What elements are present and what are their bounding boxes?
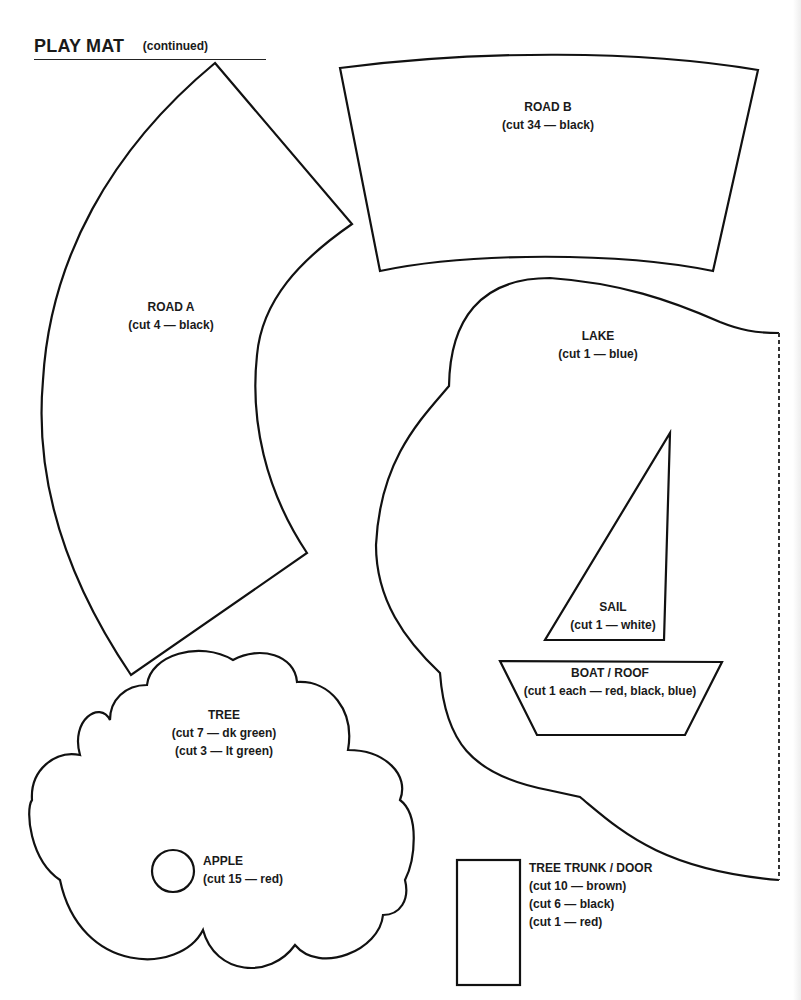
pattern-shapes bbox=[0, 0, 801, 1000]
tree-outline bbox=[29, 651, 414, 968]
road-a-label: ROAD A (cut 4 — black) bbox=[128, 298, 213, 334]
tree-label: TREE (cut 7 — dk green) (cut 3 — lt gree… bbox=[172, 706, 277, 760]
road-a-cut: (cut 4 — black) bbox=[128, 316, 213, 334]
tree-trunk-cut-brown: (cut 10 — brown) bbox=[529, 877, 652, 895]
lake-name: LAKE bbox=[558, 327, 637, 345]
tree-cut-dk-green: (cut 7 — dk green) bbox=[172, 724, 277, 742]
tree-trunk-door-outline bbox=[457, 860, 520, 985]
road-a-name: ROAD A bbox=[128, 298, 213, 316]
tree-trunk-cut-black: (cut 6 — black) bbox=[529, 895, 652, 913]
lake-label: LAKE (cut 1 — blue) bbox=[558, 327, 637, 363]
road-b-name: ROAD B bbox=[502, 98, 594, 116]
apple-label: APPLE (cut 15 — red) bbox=[203, 852, 283, 888]
tree-name: TREE bbox=[172, 706, 277, 724]
tree-trunk-door-label: TREE TRUNK / DOOR (cut 10 — brown) (cut … bbox=[529, 859, 652, 931]
apple-outline bbox=[152, 850, 194, 892]
tree-trunk-cut-red: (cut 1 — red) bbox=[529, 913, 652, 931]
sail-cut: (cut 1 — white) bbox=[570, 616, 655, 634]
tree-cut-lt-green: (cut 3 — lt green) bbox=[172, 742, 277, 760]
apple-cut: (cut 15 — red) bbox=[203, 870, 283, 888]
lake-cut: (cut 1 — blue) bbox=[558, 345, 637, 363]
road-b-outline bbox=[340, 55, 758, 271]
boat-roof-label: BOAT / ROOF (cut 1 each — red, black, bl… bbox=[524, 664, 697, 700]
road-b-label: ROAD B (cut 34 — black) bbox=[502, 98, 594, 134]
tree-trunk-door-name: TREE TRUNK / DOOR bbox=[529, 859, 652, 877]
sail-name: SAIL bbox=[570, 598, 655, 616]
page-edge-shadow bbox=[793, 0, 801, 1000]
lake-outline bbox=[376, 278, 779, 880]
road-b-cut: (cut 34 — black) bbox=[502, 116, 594, 134]
road-a-outline bbox=[42, 63, 352, 675]
apple-name: APPLE bbox=[203, 852, 283, 870]
boat-roof-name: BOAT / ROOF bbox=[524, 664, 697, 682]
boat-roof-cut: (cut 1 each — red, black, blue) bbox=[524, 682, 697, 700]
sail-label: SAIL (cut 1 — white) bbox=[570, 598, 655, 634]
